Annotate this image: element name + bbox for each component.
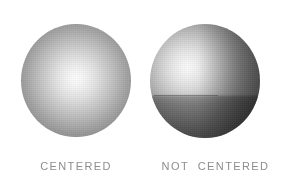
sphere-not-centered-terminator-line: [154, 95, 218, 96]
figure-canvas: CENTERED NOT CENTERED: [0, 0, 283, 184]
sphere-not-centered-rim-highlight: [150, 24, 260, 138]
sphere-centered-rim-shading: [21, 24, 131, 137]
caption-centered: CENTERED: [0, 158, 152, 174]
sphere-not-centered: [150, 24, 260, 138]
caption-not-centered: NOT CENTERED: [148, 158, 283, 174]
sphere-centered: [21, 24, 131, 137]
